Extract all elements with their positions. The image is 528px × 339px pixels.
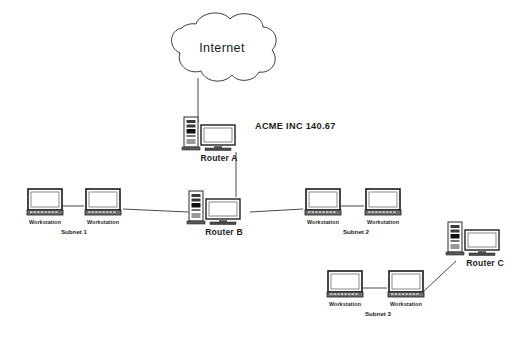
workstation-icon xyxy=(304,188,342,218)
router-a-label: Router A xyxy=(200,153,237,163)
subnet-3-ws-2-label: Workstation xyxy=(390,301,422,307)
link-router-b-to-subnet2 xyxy=(250,209,303,212)
subnet-1-label: Subnet 1 xyxy=(61,228,87,235)
diagram-canvas xyxy=(0,0,528,339)
workstation-icon xyxy=(26,188,64,218)
router-tower-monitor-icon xyxy=(445,221,511,261)
corp-label: ACME INC 140.67 xyxy=(255,121,336,131)
subnet-3-label: Subnet 3 xyxy=(365,310,391,317)
router-c[interactable]: Router C xyxy=(445,221,511,261)
link-subnet1-to-router-b xyxy=(123,209,188,212)
router-b-label: Router B xyxy=(205,227,242,237)
subnet-1-ws-1[interactable]: Workstation xyxy=(26,188,64,218)
subnet-2-label: Subnet 2 xyxy=(343,228,369,235)
cloud-icon xyxy=(172,13,277,81)
workstation-icon xyxy=(326,270,364,300)
subnet-3-ws-1[interactable]: Workstation xyxy=(326,270,364,300)
router-tower-monitor-icon xyxy=(181,116,247,156)
router-tower-monitor-icon xyxy=(186,190,252,230)
subnet-2-ws-2-label: Workstation xyxy=(367,219,399,225)
workstation-icon xyxy=(84,188,122,218)
router-c-label: Router C xyxy=(466,258,503,268)
router-b[interactable]: Router B xyxy=(186,190,252,230)
subnet-1-ws-2[interactable]: Workstation xyxy=(84,188,122,218)
link-subnet3-to-router-c xyxy=(424,261,456,291)
subnet-2-ws-1-label: Workstation xyxy=(307,219,339,225)
subnet-2-ws-1[interactable]: Workstation xyxy=(304,188,342,218)
router-a[interactable]: Router A xyxy=(181,116,247,156)
subnet-1-ws-2-label: Workstation xyxy=(87,219,119,225)
subnet-2-ws-2[interactable]: Workstation xyxy=(364,188,402,218)
subnet-3-ws-1-label: Workstation xyxy=(329,301,361,307)
subnet-3-ws-2[interactable]: Workstation xyxy=(387,270,425,300)
workstation-icon xyxy=(364,188,402,218)
subnet-1-ws-1-label: Workstation xyxy=(29,219,61,225)
workstation-icon xyxy=(387,270,425,300)
network-diagram: Internet ACME INC 140.67 Router A xyxy=(0,0,528,339)
